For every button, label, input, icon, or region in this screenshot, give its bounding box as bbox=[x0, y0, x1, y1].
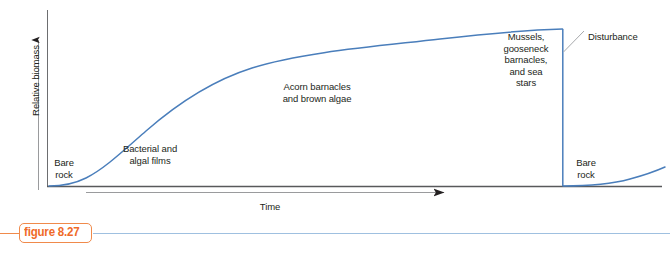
figure-number-label: figure 8.27 bbox=[24, 225, 80, 239]
caption-rule-right bbox=[93, 233, 670, 234]
annotation-acorn-barnacles: Acorn barnacles and brown algae bbox=[262, 81, 372, 104]
annotation-bare-rock-restart: Bare rock bbox=[566, 157, 606, 180]
y-axis-label: Relative biomass bbox=[30, 26, 41, 136]
annotation-mussels: Mussels, gooseneck barnacles, and sea st… bbox=[492, 31, 560, 89]
annotation-bare-rock-start: Bare rock bbox=[44, 157, 84, 180]
figure-caption-bar: figure 8.27 bbox=[0, 222, 670, 246]
annotation-bacterial-films: Bacterial and algal films bbox=[110, 143, 190, 166]
x-axis-label: Time bbox=[215, 201, 325, 212]
succession-chart bbox=[0, 0, 670, 253]
disturbance-leader-line bbox=[564, 31, 585, 52]
annotation-disturbance: Disturbance bbox=[588, 31, 668, 43]
caption-rule-left bbox=[0, 233, 20, 234]
figure-container: Relative biomass Time Bare rock Bacteria… bbox=[0, 0, 670, 253]
